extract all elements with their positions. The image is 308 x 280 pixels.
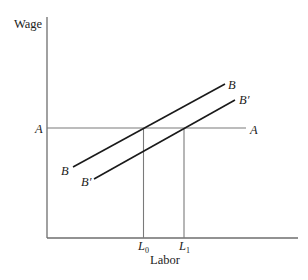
b-label-lower: B bbox=[61, 164, 69, 178]
b-prime-label-lower: B′ bbox=[81, 175, 92, 189]
a-label-left: A bbox=[34, 122, 43, 136]
b-prime-curve bbox=[94, 100, 235, 179]
y-axis-label: Wage bbox=[14, 17, 43, 31]
labor-market-diagram: Wage Labor A A B B B′ B′ L0 L1 bbox=[0, 0, 308, 280]
b-curve bbox=[73, 84, 225, 167]
b-prime-label-upper: B′ bbox=[239, 93, 250, 107]
b-label-upper: B bbox=[228, 78, 236, 92]
l1-tick-label: L1 bbox=[178, 239, 190, 255]
a-label-right: A bbox=[249, 123, 258, 137]
x-axis-label: Labor bbox=[150, 253, 181, 267]
l0-tick-label: L0 bbox=[137, 239, 149, 255]
